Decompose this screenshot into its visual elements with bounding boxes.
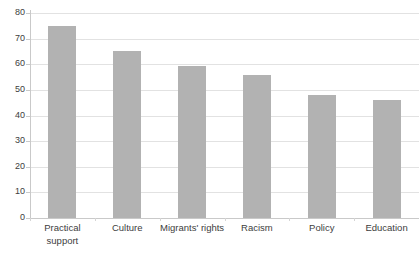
y-axis-tick-mark — [26, 90, 30, 91]
x-axis-tick-label: Practical support — [30, 221, 95, 247]
y-axis-tick-mark — [26, 141, 30, 142]
bar — [308, 95, 336, 218]
bar — [373, 100, 401, 218]
y-axis-tick-label: 20 — [1, 162, 25, 171]
bar — [113, 51, 141, 218]
x-axis-tick-label: Policy — [289, 221, 354, 234]
y-axis-tick-label: 80 — [1, 8, 25, 17]
bar-chart: 80706050403020100 Practical supportCultu… — [0, 0, 419, 258]
y-axis-tick-mark — [26, 218, 30, 219]
y-axis-tick-label: 30 — [1, 136, 25, 145]
x-axis: Practical supportCultureMigrants' rights… — [30, 221, 419, 258]
y-axis-tick-mark — [26, 13, 30, 14]
bar — [48, 26, 76, 218]
y-axis: 80706050403020100 — [0, 0, 25, 258]
y-axis-tick-label: 60 — [1, 59, 25, 68]
x-axis-tick-label: Racism — [225, 221, 290, 234]
y-axis-tick-label: 10 — [1, 187, 25, 196]
bar — [178, 66, 206, 218]
x-axis-tick-label: Migrants' rights — [160, 221, 225, 234]
bar — [243, 75, 271, 219]
y-axis-tick-mark — [26, 116, 30, 117]
y-axis-tick-label: 0 — [1, 213, 25, 222]
y-axis-tick-label: 50 — [1, 85, 25, 94]
y-axis-tick-mark — [26, 39, 30, 40]
y-axis-tick-label: 40 — [1, 111, 25, 120]
y-axis-tick-mark — [26, 64, 30, 65]
x-axis-tick-label: Education — [354, 221, 419, 234]
bars-layer — [30, 10, 419, 218]
y-axis-tick-label: 70 — [1, 34, 25, 43]
y-axis-tick-mark — [26, 192, 30, 193]
y-axis-tick-mark — [26, 167, 30, 168]
x-axis-tick-label: Culture — [95, 221, 160, 234]
